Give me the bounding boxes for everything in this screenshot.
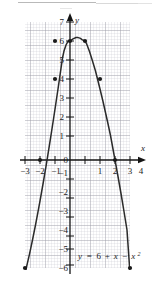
x-tick-label: 3 <box>128 166 133 176</box>
equation-constant: 6 <box>97 251 102 261</box>
x-tick-label: −1 <box>51 166 61 176</box>
equation-lhs: y <box>77 251 82 261</box>
x-axis-arrowhead <box>138 157 146 163</box>
x-tick-label: 1 <box>98 166 103 176</box>
data-point <box>38 158 42 162</box>
y-axis-arrowhead <box>67 13 73 21</box>
x-tick-label: 4 <box>139 166 144 176</box>
grid <box>25 22 130 268</box>
data-point <box>83 39 87 43</box>
data-point <box>53 77 57 81</box>
y-tick-label: −3 <box>58 206 68 216</box>
y-tick-label: −2 <box>58 187 68 197</box>
data-point <box>23 266 27 270</box>
data-point <box>68 39 72 43</box>
y-tick-label: 1 <box>60 131 65 141</box>
data-point <box>98 77 102 81</box>
y-tick-label: −5 <box>58 244 68 254</box>
data-point <box>128 266 132 270</box>
y-tick-label: −6 <box>58 263 68 273</box>
equation-plus: + <box>105 251 110 261</box>
y-tick-label-zero: 0 <box>64 155 69 165</box>
x-axis-label: x <box>140 143 145 153</box>
y-tick-label: 3 <box>60 93 65 103</box>
equation-x-squared-base: x <box>130 251 135 261</box>
equation-exponent: 2 <box>137 251 140 257</box>
data-point <box>53 39 57 43</box>
y-tick-label: 7 <box>60 17 65 27</box>
y-axis-label: y <box>74 15 79 25</box>
equation-x-term: x <box>113 251 118 261</box>
equation-equals: = <box>87 251 92 261</box>
x-tick-label: −2 <box>35 166 45 176</box>
equation-minus: − <box>122 251 127 261</box>
y-tick-label: 6 <box>60 36 65 46</box>
coordinate-graph-figure: x y 7 <box>0 0 155 282</box>
y-tick-label: −4 <box>58 225 68 235</box>
equation-label: y = 6 + x − x 2 <box>77 251 140 262</box>
x-tick-label: −3 <box>20 166 30 176</box>
graph-svg: x y 7 <box>0 0 155 282</box>
y-tick-label: 2 <box>60 112 65 122</box>
data-point <box>113 158 117 162</box>
